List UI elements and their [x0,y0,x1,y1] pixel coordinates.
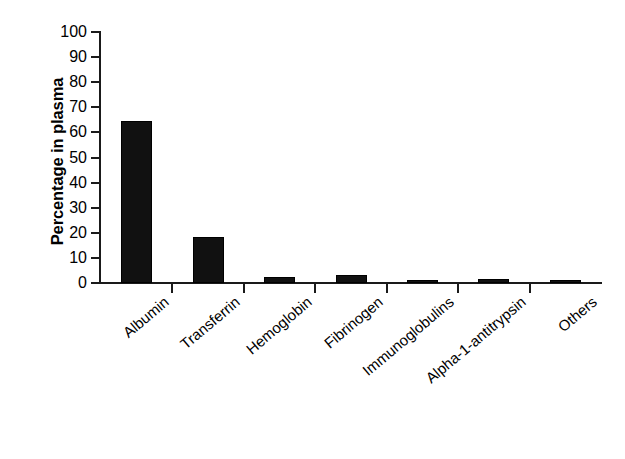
x-axis-tick-mark [386,284,388,293]
bar [264,277,295,283]
y-axis-tick-mark [91,232,100,234]
x-axis-tick-mark [529,284,531,293]
x-axis-tick-mark [171,284,173,293]
y-axis-tick-mark [91,131,100,133]
y-axis-tick-label: 40 [33,175,87,191]
y-axis-tick-label: 50 [33,150,87,166]
y-axis-tick-mark [91,257,100,259]
x-axis-tick-mark [243,284,245,293]
bar-chart-figure: Percentage in plasma 0102030405060708090… [0,0,625,459]
y-axis-tick-mark [91,81,100,83]
y-axis-tick-label: 80 [33,74,87,90]
y-axis-tick-mark [91,182,100,184]
y-axis-tick-label: 60 [33,124,87,140]
y-axis-tick-mark [91,56,100,58]
y-axis-tick-mark [91,207,100,209]
x-axis-category-label: Others [359,293,600,459]
y-axis-tick-mark [91,106,100,108]
bar [193,237,224,283]
y-axis-tick-label: 0 [33,275,87,291]
y-axis-tick-label: 70 [33,99,87,115]
bar [550,280,581,283]
y-axis-tick-mark [91,31,100,33]
y-axis-tick-label: 30 [33,200,87,216]
y-axis-tick-label: 100 [33,24,87,40]
y-axis-tick-mark [91,282,100,284]
y-axis-tick-mark [91,157,100,159]
plot-area [101,32,601,283]
y-axis-tick-label: 90 [33,49,87,65]
bar [407,280,438,283]
bar [336,275,367,283]
x-axis-tick-mark [457,284,459,293]
bar [121,121,152,283]
y-axis-tick-label: 20 [33,225,87,241]
bar [478,279,509,283]
y-axis-tick-label: 10 [33,250,87,266]
x-axis-tick-mark [314,284,316,293]
